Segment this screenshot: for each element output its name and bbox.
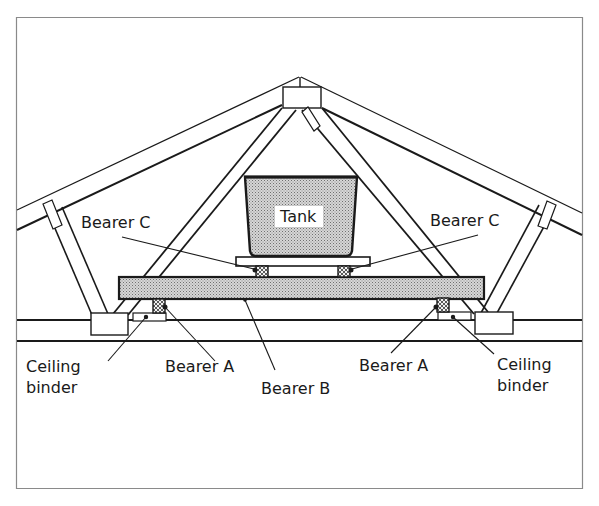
bearer-b — [119, 277, 484, 299]
label-bearer-b: Bearer B — [261, 379, 330, 398]
label-bearer-c-right: Bearer C — [430, 211, 500, 230]
bearer-b-dot — [243, 298, 247, 302]
label-bearer-a-left: Bearer A — [165, 357, 234, 376]
label-ceiling-binder-right-1: Ceiling — [497, 355, 552, 374]
label-ceiling-binder-left-1: Ceiling — [26, 357, 81, 376]
label-bearer-c-left: Bearer C — [81, 213, 151, 232]
tank: Tank — [244, 177, 358, 256]
label-ceiling-binder-right-2: binder — [497, 376, 549, 395]
label-bearer-a-right: Bearer A — [359, 356, 428, 375]
ridge-cleat — [302, 107, 320, 131]
tank-label: Tank — [279, 207, 317, 226]
truss-drawing: Tank Bearer C Bearer C Ceiling binder Be… — [0, 0, 599, 506]
tank-platform — [236, 257, 370, 266]
label-ceiling-binder-left-2: binder — [26, 378, 78, 397]
bearer-c-blocks — [253, 266, 353, 277]
bearer-a-blocks — [153, 298, 449, 313]
